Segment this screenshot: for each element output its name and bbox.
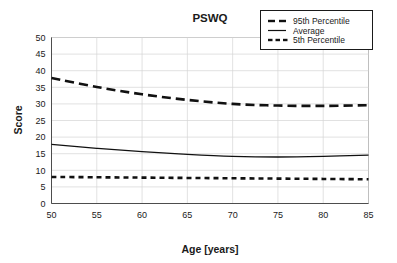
chart-title: PSWQ	[192, 12, 227, 24]
y-tick-label: 5	[40, 182, 45, 192]
y-tick-label: 25	[35, 116, 45, 126]
x-tick-label: 70	[228, 210, 238, 220]
y-tick-label: 0	[40, 199, 45, 209]
x-tick-label: 60	[137, 210, 147, 220]
y-tick-label: 50	[35, 33, 45, 43]
y-tick-label: 10	[35, 166, 45, 176]
chart-container: 5055606570758085 05101520253035404550 PS…	[0, 0, 397, 263]
y-tick-label: 15	[35, 149, 45, 159]
legend-label-average: Average	[293, 26, 325, 36]
y-tick-label: 45	[35, 49, 45, 59]
x-tick-label: 80	[318, 210, 328, 220]
x-tick-label: 85	[363, 210, 373, 220]
x-tick-label: 65	[182, 210, 192, 220]
legend-label-5th-percentile: 5th Percentile	[293, 35, 345, 45]
chart-legend: 95th Percentile Average 5th Percentile	[261, 11, 373, 50]
y-axis-title: Score	[12, 105, 24, 134]
x-tick-label: 50	[46, 210, 56, 220]
legend-label-95th-percentile: 95th Percentile	[293, 16, 350, 26]
y-tick-label: 20	[35, 132, 45, 142]
y-tick-label: 35	[35, 83, 45, 93]
y-tick-label: 30	[35, 99, 45, 109]
x-tick-label: 55	[92, 210, 102, 220]
pswq-line-chart: 5055606570758085 05101520253035404550 PS…	[0, 0, 397, 263]
x-axis-title: Age [years]	[181, 243, 238, 255]
y-tick-label: 40	[35, 66, 45, 76]
x-tick-label: 75	[273, 210, 283, 220]
